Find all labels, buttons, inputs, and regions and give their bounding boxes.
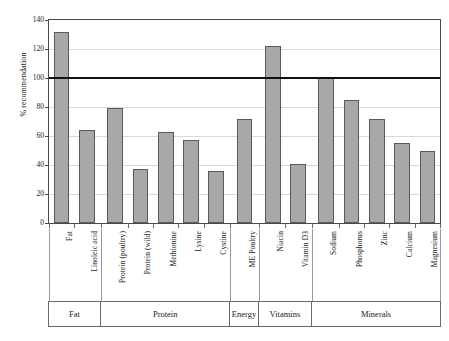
x-axis-label: Protein (wild) [143, 231, 152, 274]
bar [420, 151, 436, 224]
bar-chart: % recommendation 020406080100120140 FatL… [0, 0, 449, 341]
x-axis-label: Magnesium [430, 231, 439, 267]
x-axis-label-text: Protein (poultry) [118, 231, 127, 283]
x-axis-tick-mark [49, 224, 50, 228]
group-separator [312, 229, 313, 302]
x-axis-tick-mark [128, 224, 129, 228]
x-axis-label-text: Calcium [405, 231, 414, 257]
group-separator [49, 229, 50, 302]
x-axis-tick-mark [312, 224, 313, 228]
x-axis-label-text: Fat [65, 231, 74, 241]
x-axis-labels: FatLinoleic acidProtein (poultry)Protein… [48, 229, 441, 301]
x-axis-label-text: Protein (wild) [143, 231, 152, 274]
bar [369, 119, 385, 223]
bar-series [49, 20, 440, 223]
bar [290, 164, 306, 223]
group-label-fat: Fat [49, 302, 101, 326]
x-axis-label-text: Sodium [329, 231, 338, 255]
x-axis-label-text: Phosphorus [355, 231, 364, 267]
bar [54, 32, 70, 223]
bar [208, 171, 224, 223]
x-axis-tick-mark [259, 224, 260, 228]
x-axis-tick-mark [204, 224, 205, 228]
x-axis-label: Vitamin D3 [301, 231, 310, 267]
bar [79, 130, 95, 223]
x-axis-label-text: Lysine [194, 231, 203, 252]
x-axis-label: ME Poultry [248, 231, 257, 267]
group-separator [230, 229, 231, 302]
x-axis-ticks [48, 224, 441, 228]
y-axis-tick-mark [45, 165, 48, 166]
x-axis-tick-mark [440, 224, 441, 228]
y-axis-tick-mark [45, 136, 48, 137]
x-axis-label: Protein (poultry) [118, 231, 127, 283]
x-axis-tick-mark [364, 224, 365, 228]
x-axis-label: Calcium [405, 231, 414, 257]
group-label-minerals: Minerals [312, 302, 440, 326]
y-axis-tick-mark [45, 49, 48, 50]
x-axis-label: Phosphorus [355, 231, 364, 267]
x-axis-label: Linoleic acid [90, 231, 99, 272]
y-axis-tick-label: 120 [14, 45, 44, 53]
bar [158, 132, 174, 223]
x-axis-tick-mark [389, 224, 390, 228]
y-axis-tick-label: 140 [14, 16, 44, 24]
bar [237, 119, 253, 223]
x-axis-label-text: Cystine [219, 231, 228, 255]
y-axis-tick-mark [45, 107, 48, 108]
y-axis-tick-label: 40 [14, 161, 44, 169]
x-axis-tick-mark [178, 224, 179, 228]
x-axis-label: Niacin [276, 231, 285, 252]
y-axis-title: % recommendation [19, 20, 28, 150]
x-axis-tick-mark [230, 224, 231, 228]
x-axis-label: Zinc [380, 231, 389, 245]
x-axis-label-text: Methionine [169, 231, 178, 267]
x-axis-tick-mark [339, 224, 340, 228]
x-axis-tick-mark [415, 224, 416, 228]
y-axis-tick-mark [45, 20, 48, 21]
group-label-energy: Energy [230, 302, 258, 326]
x-axis-tick-mark [285, 224, 286, 228]
y-axis-tick-mark [45, 78, 48, 79]
bar [265, 46, 281, 223]
bar [107, 108, 123, 223]
group-label-protein: Protein [101, 302, 230, 326]
x-axis-label-text: ME Poultry [248, 231, 257, 267]
x-axis-label-text: Linoleic acid [90, 231, 99, 272]
x-axis-tick-mark [101, 224, 102, 228]
reference-line-100 [49, 77, 440, 79]
x-axis-label: Cystine [219, 231, 228, 255]
bar [183, 140, 199, 223]
y-axis-tick-label: 20 [14, 190, 44, 198]
group-separator [259, 229, 260, 302]
group-band: FatProteinEnergyVitaminsMinerals [48, 301, 441, 327]
bar [394, 143, 410, 223]
group-separator [101, 229, 102, 302]
y-axis-tick-label: 100 [14, 74, 44, 82]
x-axis-label: Methionine [169, 231, 178, 267]
x-axis-label: Lysine [194, 231, 203, 252]
group-separator [440, 229, 441, 302]
x-axis-label-text: Niacin [276, 231, 285, 252]
y-axis-tick-label: 0 [14, 219, 44, 227]
x-axis-label-text: Zinc [380, 231, 389, 245]
bar [318, 77, 334, 223]
x-axis-label-text: Vitamin D3 [301, 231, 310, 267]
group-label-vitamins: Vitamins [259, 302, 313, 326]
x-axis-tick-mark [74, 224, 75, 228]
y-axis-tick-mark [45, 194, 48, 195]
bar [344, 100, 360, 223]
x-axis-label: Sodium [329, 231, 338, 255]
y-axis-tick-label: 80 [14, 103, 44, 111]
x-axis-label: Fat [65, 231, 74, 241]
x-axis-label-text: Magnesium [430, 231, 439, 267]
x-axis-tick-mark [153, 224, 154, 228]
bar [133, 169, 149, 223]
y-axis-tick-label: 60 [14, 132, 44, 140]
